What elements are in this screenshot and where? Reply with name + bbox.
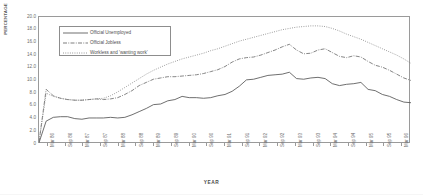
chart-legend: Official UnemployedOfficial JoblessWorkl… bbox=[59, 26, 171, 56]
x-tick-label: Mar 94 bbox=[332, 117, 340, 147]
x-tick-mark bbox=[348, 143, 349, 146]
x-tick-label: Sep 95 bbox=[386, 117, 394, 147]
x-tick-label: Mar 93 bbox=[297, 117, 305, 147]
x-tick-label: Sep 87 bbox=[102, 117, 110, 147]
x-tick-mark bbox=[259, 143, 260, 146]
legend-line-swatch bbox=[63, 39, 88, 47]
x-tick-label: Mar 87 bbox=[84, 117, 92, 147]
legend-label: Workless and 'wanting work' bbox=[90, 49, 148, 57]
x-tick-label: Sep 90 bbox=[208, 117, 216, 147]
x-tick-mark bbox=[82, 143, 83, 146]
x-tick-mark bbox=[100, 143, 101, 146]
page-edge-artifact bbox=[0, 194, 423, 195]
legend-item[interactable]: Workless and 'wanting work' bbox=[60, 48, 170, 57]
x-tick-label: Mar 92 bbox=[262, 117, 270, 147]
x-tick-mark bbox=[135, 143, 136, 146]
legend-item[interactable]: Official Jobless bbox=[60, 38, 170, 47]
x-tick-mark bbox=[189, 143, 190, 146]
x-tick-label: Sep 93 bbox=[315, 117, 323, 147]
x-tick-label: Mar 86 bbox=[49, 117, 57, 147]
x-tick-mark bbox=[366, 143, 367, 146]
x-tick-label: Sep 94 bbox=[350, 117, 358, 147]
x-tick-mark bbox=[313, 143, 314, 146]
x-tick-mark bbox=[118, 143, 119, 146]
x-tick-label: Sep 92 bbox=[279, 117, 287, 147]
legend-item[interactable]: Official Unemployed bbox=[60, 28, 170, 37]
x-tick-mark bbox=[206, 143, 207, 146]
x-tick-mark bbox=[295, 143, 296, 146]
x-tick-label: Sep 89 bbox=[173, 117, 181, 147]
legend-label: Official Unemployed bbox=[90, 29, 131, 37]
x-tick-label: Sep 91 bbox=[244, 117, 252, 147]
x-axis-title: YEAR bbox=[0, 180, 423, 185]
x-tick-label: Sep 88 bbox=[138, 117, 146, 147]
x-tick-mark bbox=[65, 143, 66, 146]
x-tick-label: Mar 95 bbox=[368, 117, 376, 147]
x-tick-label: Mar 90 bbox=[191, 117, 199, 147]
x-tick-mark bbox=[242, 143, 243, 146]
x-tick-label: Mar 91 bbox=[226, 117, 234, 147]
x-tick-label: Mar 96 bbox=[403, 117, 411, 147]
x-tick-label: Sep 86 bbox=[67, 117, 75, 147]
x-tick-mark bbox=[277, 143, 278, 146]
chart-figure: PERCENTAGE 20.018.016.014.012.010.08.06.… bbox=[0, 0, 423, 196]
x-tick-mark bbox=[330, 143, 331, 146]
x-tick-mark bbox=[47, 143, 48, 146]
x-tick-mark bbox=[401, 143, 402, 146]
x-tick-mark bbox=[383, 143, 384, 146]
x-tick-label: Mar 88 bbox=[120, 117, 128, 147]
legend-line-swatch bbox=[63, 29, 88, 37]
legend-line-swatch bbox=[63, 49, 88, 57]
legend-label: Official Jobless bbox=[90, 39, 121, 47]
x-tick-mark bbox=[171, 143, 172, 146]
x-tick-mark bbox=[153, 143, 154, 146]
x-tick-label: Mar 89 bbox=[155, 117, 163, 147]
x-tick-mark bbox=[224, 143, 225, 146]
